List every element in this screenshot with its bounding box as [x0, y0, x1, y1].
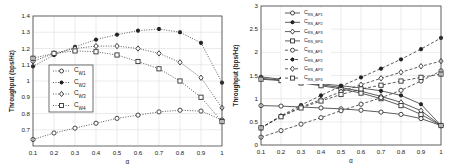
star-marker-icon	[291, 20, 295, 24]
x-tick-label: 0.8	[176, 149, 185, 156]
y-axis-label: Throughput (bps/Hz)	[8, 50, 16, 112]
circle-marker-icon	[291, 11, 295, 15]
circle-marker-icon	[178, 108, 182, 112]
square-marker-icon	[52, 51, 56, 55]
x-tick-label: 0.5	[337, 148, 346, 155]
y-tick-label: 0.8	[21, 110, 30, 117]
circle-marker-icon	[60, 69, 64, 73]
star-marker-icon	[399, 93, 403, 97]
x-tick-label: 0.4	[317, 148, 326, 155]
circle-marker-icon	[319, 116, 323, 120]
circle-marker-icon	[399, 88, 403, 92]
x-axis-label: α	[126, 158, 130, 165]
square-marker-icon	[157, 67, 161, 71]
square-marker-icon	[379, 83, 383, 87]
star-marker-icon	[115, 33, 119, 37]
circle-marker-icon	[379, 110, 383, 114]
square-marker-icon	[115, 53, 119, 57]
y-tick-label: 2	[255, 48, 259, 55]
x-axis-label: α	[349, 157, 353, 164]
y-tick-label: 1.4	[21, 12, 30, 19]
x-tick-label: 0.6	[357, 148, 366, 155]
y-tick-label: 1	[255, 95, 259, 102]
star-marker-icon	[359, 75, 363, 79]
x-tick-label: 0.7	[155, 149, 164, 156]
legend: CW1CW2CW3CW4	[49, 65, 93, 112]
y-tick-label: 1.5	[249, 72, 258, 79]
circle-marker-icon	[73, 126, 77, 130]
square-marker-icon	[419, 75, 423, 79]
x-tick-label: 0.9	[197, 149, 206, 156]
square-marker-icon	[359, 91, 363, 95]
square-marker-icon	[291, 39, 295, 43]
x-tick-label: 0.9	[417, 148, 426, 155]
square-marker-icon	[94, 50, 98, 54]
star-marker-icon	[199, 41, 203, 45]
square-marker-icon	[419, 112, 423, 116]
x-tick-label: 1	[220, 149, 224, 156]
x-tick-label: 0.5	[113, 149, 122, 156]
y-tick-label: 0.7	[21, 126, 30, 133]
circle-marker-icon	[279, 104, 283, 108]
star-marker-icon	[419, 47, 423, 51]
y-tick-label: 2.5	[249, 25, 258, 32]
y-tick-label: 1.2	[21, 45, 30, 52]
circle-marker-icon	[359, 102, 363, 106]
x-tick-label: 0.6	[134, 149, 143, 156]
y-tick-label: 1.3	[21, 28, 30, 35]
x-tick-label: 1	[439, 148, 443, 155]
y-tick-label: 0.9	[21, 93, 30, 100]
square-marker-icon	[199, 95, 203, 99]
square-marker-icon	[399, 79, 403, 83]
circle-marker-icon	[52, 131, 56, 135]
circle-marker-icon	[399, 112, 403, 116]
square-marker-icon	[279, 115, 283, 119]
star-marker-icon	[379, 89, 383, 93]
x-tick-label: 0.1	[257, 148, 266, 155]
right-chart: 0.10.20.30.40.50.60.70.80.9100.511.522.5…	[230, 0, 457, 166]
x-tick-label: 0.7	[377, 148, 386, 155]
square-marker-icon	[319, 99, 323, 103]
square-marker-icon	[60, 104, 64, 108]
star-marker-icon	[94, 37, 98, 41]
legend: CRS_AP1CRS_AP2CRS_AP3CRS_BP4CRS_AP1CRS_A…	[281, 8, 331, 84]
circle-marker-icon	[319, 106, 323, 110]
y-tick-label: 0	[255, 141, 259, 148]
star-marker-icon	[291, 58, 295, 62]
circle-marker-icon	[199, 109, 203, 113]
left-chart-svg: 0.10.20.30.40.50.60.70.80.910.70.80.911.…	[0, 0, 230, 166]
x-tick-label: 0.2	[277, 148, 286, 155]
circle-marker-icon	[379, 96, 383, 100]
star-marker-icon	[60, 81, 64, 85]
square-marker-icon	[178, 79, 182, 83]
x-tick-label: 0.4	[92, 149, 101, 156]
circle-marker-icon	[359, 108, 363, 112]
circle-marker-icon	[136, 113, 140, 117]
right-chart-svg: 0.10.20.30.40.50.60.70.80.9100.511.522.5…	[230, 0, 457, 166]
square-marker-icon	[73, 49, 77, 53]
y-axis-label: Throughput (bps/Hz)	[232, 45, 240, 107]
x-tick-label: 0.3	[297, 148, 306, 155]
star-marker-icon	[399, 57, 403, 61]
y-tick-label: 3	[255, 2, 259, 9]
square-marker-icon	[299, 106, 303, 110]
circle-marker-icon	[299, 122, 303, 126]
y-tick-label: 1.1	[21, 61, 30, 68]
left-chart: 0.10.20.30.40.50.60.70.80.910.70.80.911.…	[0, 0, 230, 166]
circle-marker-icon	[419, 116, 423, 120]
x-tick-label: 0.2	[50, 149, 59, 156]
circle-marker-icon	[279, 129, 283, 133]
y-tick-label: 0.5	[249, 118, 258, 125]
square-marker-icon	[319, 84, 323, 88]
square-marker-icon	[399, 104, 403, 108]
square-marker-icon	[359, 87, 363, 91]
x-tick-label: 0.3	[71, 149, 80, 156]
circle-marker-icon	[291, 48, 295, 52]
circle-marker-icon	[339, 109, 343, 113]
x-tick-label: 0.1	[29, 149, 38, 156]
y-tick-label: 1	[27, 77, 31, 84]
circle-marker-icon	[157, 110, 161, 114]
circle-marker-icon	[94, 121, 98, 125]
square-marker-icon	[136, 59, 140, 63]
circle-marker-icon	[115, 116, 119, 120]
